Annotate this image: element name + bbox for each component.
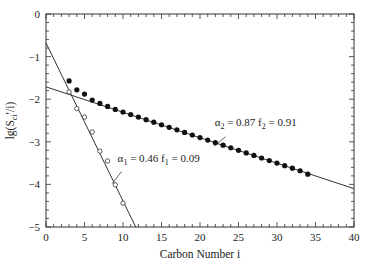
plot-frame bbox=[46, 14, 354, 227]
filled-data-point bbox=[290, 166, 295, 171]
x-tick-label: 25 bbox=[233, 231, 245, 243]
y-tick-label: −4 bbox=[28, 178, 40, 190]
filled-data-point bbox=[228, 145, 233, 150]
filled-data-point bbox=[221, 143, 226, 148]
filled-data-point bbox=[182, 130, 187, 135]
filled-data-point bbox=[282, 163, 287, 168]
x-tick-label: 10 bbox=[118, 231, 130, 243]
x-tick-label: 40 bbox=[349, 231, 361, 243]
filled-data-point bbox=[236, 148, 241, 153]
filled-data-point bbox=[298, 168, 303, 173]
filled-data-point bbox=[105, 104, 110, 109]
data-points bbox=[67, 78, 311, 205]
annotation-leader bbox=[112, 172, 121, 184]
filled-data-point bbox=[151, 120, 156, 125]
filled-data-point bbox=[120, 109, 125, 114]
axis-ticks bbox=[46, 14, 354, 227]
open-data-point bbox=[75, 106, 79, 110]
filled-data-point bbox=[97, 101, 102, 106]
filled-data-point bbox=[213, 140, 218, 145]
y-axis-title: lg(Sci′/i) bbox=[4, 101, 19, 139]
y-tick-label: −2 bbox=[28, 93, 40, 105]
x-tick-label: 35 bbox=[310, 231, 322, 243]
filled-data-point bbox=[167, 125, 172, 130]
filled-data-point bbox=[113, 107, 118, 112]
filled-data-point bbox=[159, 122, 164, 127]
annotation-label-1: α1 = 0.46 f1 = 0.09 bbox=[118, 152, 201, 167]
annotation-label-2: α2 = 0.87 f2 = 0.91 bbox=[215, 116, 297, 131]
filled-data-point bbox=[190, 132, 195, 137]
filled-data-point bbox=[274, 161, 279, 166]
y-tick-label: −1 bbox=[28, 51, 40, 63]
plot-border bbox=[46, 14, 354, 227]
filled-data-point bbox=[205, 137, 210, 142]
annotations: α1 = 0.46 f1 = 0.09α2 = 0.87 f2 = 0.91 bbox=[112, 116, 297, 184]
x-tick-label: 30 bbox=[272, 231, 284, 243]
filled-data-point bbox=[267, 158, 272, 163]
y-tick-label: −3 bbox=[28, 136, 40, 148]
y-tick-label: 0 bbox=[35, 8, 41, 20]
filled-data-point bbox=[144, 117, 149, 122]
filled-data-point bbox=[174, 127, 179, 132]
chart-container: 05101520253035400−1−2−3−4−5 α1 = 0.46 f1… bbox=[0, 0, 368, 269]
filled-data-point bbox=[305, 172, 310, 177]
x-axis-title: Carbon Number i bbox=[160, 248, 240, 260]
x-tick-label: 0 bbox=[43, 231, 49, 243]
open-data-point bbox=[82, 115, 86, 119]
open-data-point bbox=[90, 130, 94, 134]
y-tick-label: −5 bbox=[28, 221, 40, 233]
filled-data-point bbox=[251, 153, 256, 158]
x-tick-label: 5 bbox=[82, 231, 88, 243]
filled-data-point bbox=[244, 150, 249, 155]
x-tick-label: 15 bbox=[156, 231, 168, 243]
fit-line bbox=[46, 43, 136, 227]
axis-tick-labels: 05101520253035400−1−2−3−4−5 bbox=[28, 8, 360, 243]
filled-data-point bbox=[197, 135, 202, 140]
filled-data-point bbox=[82, 91, 87, 96]
open-data-point bbox=[121, 201, 125, 205]
filled-data-point bbox=[90, 97, 95, 102]
open-data-point bbox=[98, 149, 102, 153]
chart-svg: 05101520253035400−1−2−3−4−5 α1 = 0.46 f1… bbox=[0, 0, 368, 269]
open-data-point bbox=[113, 183, 117, 187]
filled-data-point bbox=[128, 112, 133, 117]
open-data-point bbox=[67, 90, 71, 94]
filled-data-point bbox=[74, 87, 79, 92]
y-axis-title-text: lg(Sci′/i) bbox=[4, 101, 19, 139]
open-data-point bbox=[105, 159, 109, 163]
filled-data-point bbox=[136, 114, 141, 119]
x-tick-label: 20 bbox=[195, 231, 207, 243]
filled-data-point bbox=[67, 78, 72, 83]
filled-data-point bbox=[259, 155, 264, 160]
